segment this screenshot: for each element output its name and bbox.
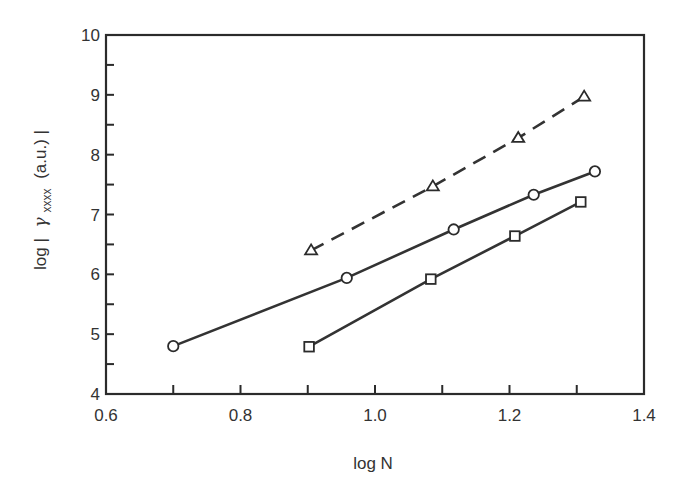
y-label-symbol: γ	[30, 216, 50, 227]
square-marker	[426, 274, 436, 284]
line-chart: 0.60.81.01.21.4 45678910 log N log | γ x…	[0, 0, 684, 496]
y-axis-label: log | γ xxxx (a.u.) |	[30, 130, 55, 270]
series-line	[311, 97, 584, 251]
circle-marker	[529, 190, 539, 200]
y-tick-label: 6	[91, 265, 100, 284]
circle-marker	[448, 224, 458, 234]
x-axis-label: log N	[353, 454, 393, 473]
y-tick-label: 7	[91, 206, 100, 225]
y-tick-label: 10	[81, 26, 100, 45]
square-marker	[576, 197, 586, 207]
x-tick-label: 0.8	[229, 406, 253, 425]
y-tick-label: 9	[91, 86, 100, 105]
circle-marker	[342, 273, 352, 283]
x-axis-ticks: 0.60.81.01.21.4	[94, 385, 656, 425]
circle-marker	[168, 341, 178, 351]
y-tick-label: 5	[91, 325, 100, 344]
series-layer	[168, 91, 600, 352]
series-circle	[168, 166, 600, 351]
y-axis-ticks: 45678910	[81, 26, 114, 404]
x-tick-label: 0.6	[94, 406, 118, 425]
y-label-subscript: xxxx	[40, 189, 54, 213]
circle-marker	[590, 166, 600, 176]
y-label-prefix: log |	[31, 238, 50, 270]
svg-text:log | γ xxxx: log | γ xxxx (a.u.) |	[30, 130, 55, 270]
square-marker	[304, 342, 314, 352]
x-tick-label: 1.2	[498, 406, 522, 425]
y-tick-label: 4	[91, 385, 100, 404]
triangle-marker	[512, 132, 524, 142]
y-label-suffix: (a.u.) |	[31, 130, 50, 179]
square-marker	[510, 231, 520, 241]
x-tick-label: 1.4	[632, 406, 656, 425]
y-tick-label: 8	[91, 146, 100, 165]
x-tick-label: 1.0	[363, 406, 387, 425]
triangle-marker	[578, 91, 590, 101]
